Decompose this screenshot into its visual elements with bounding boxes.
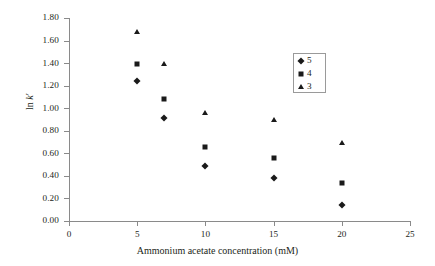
x-axis-tick bbox=[342, 221, 343, 226]
x-axis-tick-label: 25 bbox=[395, 230, 425, 239]
x-axis-tick bbox=[69, 221, 70, 226]
y-axis-tick bbox=[64, 41, 69, 42]
y-axis-tick bbox=[64, 108, 69, 109]
x-axis-tick bbox=[274, 221, 275, 226]
x-axis-tick bbox=[137, 221, 138, 226]
legend-item-label: 3 bbox=[307, 82, 312, 91]
data-point bbox=[339, 180, 344, 185]
square-marker-icon bbox=[299, 72, 304, 77]
y-axis-title-text: ln k′ bbox=[24, 93, 35, 110]
data-point bbox=[161, 115, 168, 122]
data-point bbox=[161, 61, 167, 66]
y-axis-tick bbox=[64, 18, 69, 19]
y-axis-tick-label: 1.40 bbox=[0, 59, 59, 68]
x-axis-tick bbox=[410, 221, 411, 226]
data-point bbox=[162, 97, 167, 102]
x-axis-line bbox=[69, 221, 411, 222]
data-point bbox=[134, 78, 141, 85]
y-axis-line bbox=[69, 18, 70, 222]
x-axis-tick-label: 20 bbox=[327, 230, 357, 239]
y-axis-tick bbox=[64, 131, 69, 132]
data-point bbox=[271, 155, 276, 160]
y-axis-tick bbox=[64, 198, 69, 199]
diamond-marker-icon bbox=[297, 57, 304, 64]
y-axis-title: ln k′ bbox=[24, 85, 35, 119]
x-axis-tick-label: 5 bbox=[122, 230, 152, 239]
legend-item-label: 4 bbox=[307, 69, 312, 78]
x-axis-title: Ammonium acetate concentration (mM) bbox=[0, 245, 435, 256]
data-point bbox=[338, 202, 345, 209]
y-axis-tick bbox=[64, 86, 69, 87]
x-axis-tick bbox=[205, 221, 206, 226]
y-axis-tick-label: 0.60 bbox=[0, 149, 59, 158]
data-point bbox=[135, 62, 140, 67]
chart-legend: 543 bbox=[293, 53, 326, 93]
data-point bbox=[134, 29, 140, 34]
y-axis-tick-label: 0.20 bbox=[0, 194, 59, 203]
y-axis-tick-label: 0.40 bbox=[0, 171, 59, 180]
y-axis-tick bbox=[64, 176, 69, 177]
y-axis-tick-label: 1.60 bbox=[0, 36, 59, 45]
scatter-chart: 0.000.200.400.600.801.001.201.401.601.80… bbox=[0, 0, 435, 266]
y-axis-tick-label: 0.00 bbox=[0, 216, 59, 225]
legend-marker bbox=[294, 55, 307, 67]
legend-item: 4 bbox=[294, 68, 325, 80]
legend-item-label: 5 bbox=[307, 56, 312, 65]
data-point bbox=[271, 117, 277, 122]
legend-marker bbox=[294, 68, 307, 80]
data-point bbox=[203, 144, 208, 149]
y-axis-tick-label: 1.80 bbox=[0, 13, 59, 22]
y-axis-tick bbox=[64, 153, 69, 154]
legend-item: 5 bbox=[294, 55, 325, 67]
x-axis-tick-label: 15 bbox=[259, 230, 289, 239]
legend-item: 3 bbox=[294, 81, 325, 93]
x-axis-tick-label: 10 bbox=[190, 230, 220, 239]
data-point bbox=[202, 110, 208, 115]
x-axis-tick-label: 0 bbox=[54, 230, 84, 239]
data-point bbox=[339, 140, 345, 145]
y-axis-tick-label: 0.80 bbox=[0, 126, 59, 135]
data-point bbox=[202, 162, 209, 169]
triangle-marker-icon bbox=[298, 84, 304, 89]
data-point bbox=[270, 175, 277, 182]
y-axis-tick bbox=[64, 63, 69, 64]
legend-marker bbox=[294, 81, 307, 93]
